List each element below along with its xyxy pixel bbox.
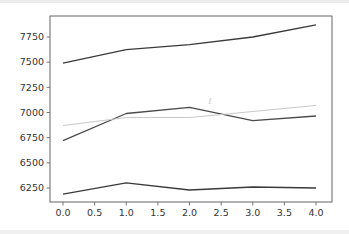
- x-tick-label: 4.0: [308, 207, 323, 218]
- y-tick-label: 7250: [20, 82, 44, 93]
- x-tick-label: 0.5: [87, 207, 102, 218]
- x-tick-label: 0.0: [55, 207, 70, 218]
- x-tick-label: 3.0: [245, 207, 260, 218]
- y-tick-label: 6500: [20, 157, 44, 168]
- line-series-1: [63, 25, 316, 63]
- x-tick-label: 2.0: [182, 207, 197, 218]
- line-series-2: [63, 107, 316, 140]
- y-tick-label: 7000: [20, 107, 44, 118]
- y-tick-label: 7750: [20, 31, 44, 42]
- line-series-3: [63, 105, 316, 125]
- y-tick-label: 7500: [20, 56, 44, 67]
- x-tick-label: 3.5: [277, 207, 292, 218]
- annotation-mark: ℓ: [207, 97, 211, 106]
- x-tick-label: 1.5: [150, 207, 165, 218]
- y-tick-label: 6750: [20, 132, 44, 143]
- x-tick-label: 2.5: [214, 207, 229, 218]
- line-series-4: [63, 183, 316, 194]
- x-tick-label: 1.0: [119, 207, 134, 218]
- y-tick-label: 6250: [20, 182, 44, 193]
- line-chart: 62506500675070007250750077500.00.51.01.5…: [0, 0, 349, 234]
